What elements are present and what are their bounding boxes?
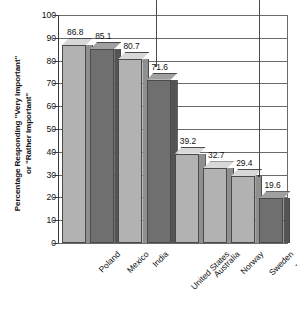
leader-line-right [259, 0, 260, 176]
y-axis-line [58, 15, 59, 243]
bar-value-label: 71.6 [152, 62, 168, 72]
x-axis-label: Mexico [125, 249, 151, 275]
gridline [58, 15, 288, 16]
bar [90, 42, 114, 243]
bar-side-face [283, 198, 290, 243]
bar [175, 147, 199, 243]
bar-front-face [259, 198, 283, 243]
bar [203, 161, 227, 243]
bar-top-face [90, 42, 121, 49]
bar [231, 169, 255, 243]
bar [147, 73, 171, 243]
bar-front-face [175, 154, 199, 243]
bar-value-label: 85.1 [95, 31, 111, 41]
x-axis-label: Japan [293, 249, 297, 272]
bar-top-face [203, 161, 234, 168]
x-axis-label: Sweden [267, 249, 295, 277]
bar-value-label: 29.4 [236, 158, 252, 168]
leader-line-left [156, 0, 157, 66]
gridline [58, 243, 288, 244]
x-axis-label: Poland [97, 249, 123, 275]
x-axis-label: India [151, 249, 171, 269]
x-axis-label: Norway [238, 249, 265, 276]
bar-top-face [118, 52, 149, 59]
bar-front-face [231, 176, 255, 243]
bar [259, 191, 283, 243]
bar-value-label: 39.2 [180, 136, 196, 146]
bar-front-face [203, 168, 227, 243]
bar-front-face [62, 45, 86, 243]
bar-value-label: 32.7 [208, 150, 224, 160]
plot-area [58, 15, 288, 243]
bar-top-face [147, 73, 178, 80]
leader-line-right-dot [258, 175, 260, 177]
bar [118, 52, 142, 243]
bar [62, 38, 86, 243]
bar-value-label: 19.6 [264, 180, 280, 190]
bar-chart: Percentage Responding "Very Important" o… [0, 0, 297, 322]
bar-value-label: 80.7 [123, 41, 139, 51]
bar-value-label: 86.8 [67, 27, 83, 37]
bar-front-face [118, 59, 142, 243]
bar-front-face [147, 80, 171, 243]
bar-top-face [62, 38, 93, 45]
bar-front-face [90, 49, 114, 243]
leader-line-left-dot [155, 65, 157, 67]
